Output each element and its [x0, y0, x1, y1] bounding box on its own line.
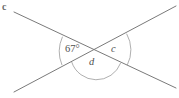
- descending-line: [14, 12, 176, 88]
- angle-label-c: c: [111, 44, 116, 55]
- left-angle-arc: [59, 37, 62, 65]
- angle-label-67-degrees: 67°: [65, 44, 80, 55]
- ascending-line: [14, 6, 176, 92]
- bottom-angle-arc: [72, 62, 121, 80]
- right-angle-arc: [127, 34, 131, 65]
- geometry-canvas: [0, 0, 179, 98]
- angle-label-d: d: [89, 57, 94, 68]
- geometry-figure: c 67° c d: [0, 0, 179, 98]
- exterior-label-c: c: [2, 2, 6, 12]
